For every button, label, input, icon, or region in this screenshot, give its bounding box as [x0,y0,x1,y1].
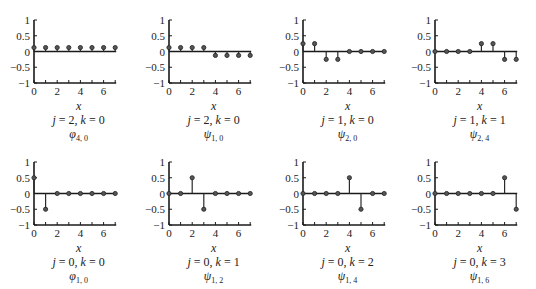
x-tick-label: 2 [455,85,461,97]
y-tick-label: 0 [294,188,300,200]
y-tick-label: 0 [426,188,432,200]
stem-plot-panel: 10.50−0.5−10246xj = 0, k = 1ψ1, 2 [145,156,252,285]
panel-caption: j = 1, k = 1 [451,113,505,127]
stem-marker [237,191,241,195]
stem-marker [382,191,386,195]
y-tick-label: 1 [25,156,31,168]
stem-marker [90,45,94,49]
stem-marker [456,49,460,53]
panel-caption: j = 2, k = 0 [185,113,239,127]
stem-marker [78,45,82,49]
stem-marker [78,191,82,195]
x-tick-label: 4 [213,227,219,239]
x-axis-label: x [75,99,82,113]
stem-marker [67,45,71,49]
basis-function-label: ψ1, 0 [204,127,223,143]
y-tick-label: 1 [25,14,31,26]
stem-marker [202,45,206,49]
basis-function-label: ψ2, 0 [338,127,357,143]
panel-caption: j = 1, k = 0 [319,113,373,127]
x-tick-label: 2 [323,85,329,97]
stem-plot-panel: 10.50−0.5−10246xj = 0, k = 3ψ1, 6 [411,156,518,285]
stem-marker [102,45,106,49]
stem-marker [445,49,449,53]
stem-marker [225,53,229,57]
x-axis-label: x [75,241,82,255]
stem-marker [433,191,437,195]
stem-marker [301,191,305,195]
x-tick-label: 6 [101,227,107,239]
panel-caption: j = 2, k = 0 [50,113,104,127]
stem-marker [67,191,71,195]
stem-marker [202,207,206,211]
basis-function-label: ψ1, 2 [204,269,223,285]
stem-marker [347,49,351,53]
stem-marker [90,191,94,195]
y-tick-label: 0.5 [285,172,299,184]
y-tick-label: −0.5 [279,203,299,215]
x-tick-label: 2 [323,227,329,239]
basis-function-label: φ4, 0 [69,127,88,143]
stem-marker [491,191,495,195]
x-tick-label: 6 [236,85,242,97]
stem-marker [468,191,472,195]
y-tick-label: −1 [153,219,165,231]
y-tick-label: −0.5 [411,203,431,215]
x-tick-label: 0 [432,85,438,97]
x-tick-label: 2 [189,85,195,97]
stem-marker [479,191,483,195]
stem-marker [190,176,194,180]
basis-function-label: ψ1, 6 [470,269,489,285]
y-tick-label: 1 [160,14,166,26]
x-tick-label: 0 [166,227,172,239]
y-tick-label: −1 [419,77,431,89]
x-tick-label: 0 [432,227,438,239]
x-tick-label: 4 [78,227,84,239]
stem-marker [433,49,437,53]
y-tick-label: −1 [18,77,30,89]
stem-plot-panel: 10.50−0.5−10246xj = 0, k = 0φ1, 0 [10,156,117,285]
y-tick-label: 1 [160,156,166,168]
stem-marker [44,45,48,49]
x-axis-label: x [210,241,217,255]
stem-marker [225,191,229,195]
stem-marker [313,42,317,46]
stem-marker [213,191,217,195]
x-tick-label: 4 [479,85,485,97]
y-tick-label: −1 [419,219,431,231]
stem-marker [324,191,328,195]
y-tick-label: 0 [160,188,166,200]
stem-marker [347,176,351,180]
x-tick-label: 0 [300,227,306,239]
y-tick-label: −1 [287,219,299,231]
y-tick-label: 0.5 [285,30,299,42]
y-tick-label: −0.5 [279,61,299,73]
stem-marker [248,191,252,195]
y-tick-label: 1 [294,156,300,168]
x-tick-label: 4 [479,227,485,239]
stem-marker [55,45,59,49]
stem-marker [113,191,117,195]
stem-marker [359,49,363,53]
y-tick-label: 0.5 [151,172,165,184]
stem-marker [359,207,363,211]
y-tick-label: 0.5 [417,30,431,42]
stem-marker [179,191,183,195]
y-tick-label: 0 [426,46,432,58]
y-tick-label: −0.5 [145,203,165,215]
stem-marker [313,191,317,195]
x-tick-label: 4 [347,227,353,239]
x-axis-label: x [344,99,351,113]
x-tick-label: 0 [166,85,172,97]
x-tick-label: 6 [101,85,107,97]
y-tick-label: 1 [294,14,300,26]
y-tick-label: 0 [160,46,166,58]
x-tick-label: 6 [370,85,376,97]
stem-marker [371,49,375,53]
x-axis-label: x [210,99,217,113]
x-tick-label: 2 [189,227,195,239]
stem-marker [336,57,340,61]
y-tick-label: −1 [287,77,299,89]
stem-marker [324,57,328,61]
y-tick-label: 0.5 [417,172,431,184]
